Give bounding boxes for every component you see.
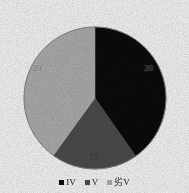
pie-svg xyxy=(0,0,189,172)
legend-item[interactable]: V xyxy=(85,178,99,187)
chart-legend: IVV劣V xyxy=(0,172,189,193)
legend-item[interactable]: 劣V xyxy=(107,178,130,187)
legend-swatch-icon xyxy=(107,180,112,185)
legend-item[interactable]: IV xyxy=(59,178,76,187)
pie-slice-group xyxy=(24,27,166,169)
legend-item-label: 劣V xyxy=(114,178,130,187)
legend-item-label: IV xyxy=(66,178,76,187)
legend-swatch-icon xyxy=(59,180,64,185)
legend-item-label: V xyxy=(92,178,99,187)
pie-chart-figure: 201520 IVV劣V xyxy=(0,0,189,193)
pie-plot-area: 201520 xyxy=(0,0,189,172)
legend-swatch-icon xyxy=(85,180,90,185)
